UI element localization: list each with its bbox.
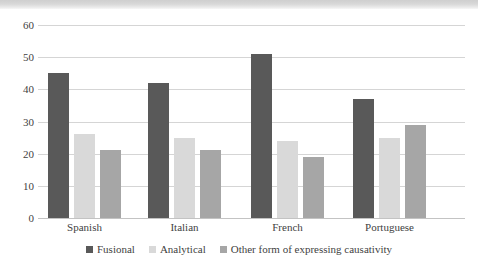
y-axis-tick-labels: 60 50 40 30 20 10 0: [0, 25, 34, 218]
legend-item-analytical[interactable]: Analytical: [149, 243, 206, 256]
bar-french-analytical: [277, 141, 298, 218]
y-tick-10: 10: [4, 181, 34, 192]
bar-spanish-analytical: [74, 134, 95, 218]
legend-swatch-icon: [220, 246, 227, 253]
y-tick-30: 30: [4, 117, 34, 128]
legend-item-other-form-of-expressing-causativity[interactable]: Other form of expressing causativity: [220, 243, 392, 256]
x-axis-category-labels: SpanishItalianFrenchPortuguese: [38, 221, 465, 237]
bar-portuguese-fusional: [353, 99, 374, 218]
legend-label: Fusional: [97, 243, 135, 256]
bar-french-fusional: [251, 54, 272, 218]
chart-legend: FusionalAnalyticalOther form of expressi…: [0, 243, 478, 256]
bar-portuguese-analytical: [379, 138, 400, 218]
scan-edge-band: [0, 0, 478, 9]
legend-swatch-icon: [149, 246, 156, 253]
y-tick-50: 50: [4, 52, 34, 63]
bar-italian-fusional: [148, 83, 169, 218]
y-tick-0: 0: [4, 213, 34, 224]
legend-label: Other form of expressing causativity: [231, 243, 392, 256]
bar-italian-other-form-of-expressing-causativity: [200, 150, 221, 218]
y-tick-40: 40: [4, 84, 34, 95]
bar-portuguese-other-form-of-expressing-causativity: [405, 125, 426, 218]
x-label-portuguese: Portuguese: [345, 221, 435, 234]
x-label-spanish: Spanish: [40, 221, 130, 234]
axis-baseline: [38, 218, 465, 219]
bar-series-layer: [38, 25, 465, 218]
bar-italian-analytical: [174, 138, 195, 218]
legend-item-fusional[interactable]: Fusional: [86, 243, 135, 256]
x-label-french: French: [243, 221, 333, 234]
chart-screenshot: 60 50 40 30 20 10 0 SpanishItalianFrench…: [0, 0, 478, 274]
legend-label: Analytical: [160, 243, 206, 256]
y-tick-60: 60: [4, 20, 34, 31]
bar-french-other-form-of-expressing-causativity: [303, 157, 324, 218]
bar-chart: 60 50 40 30 20 10 0 SpanishItalianFrench…: [0, 9, 478, 274]
bar-spanish-fusional: [48, 73, 69, 218]
legend-swatch-icon: [86, 246, 93, 253]
bar-spanish-other-form-of-expressing-causativity: [100, 150, 121, 218]
x-label-italian: Italian: [140, 221, 230, 234]
y-tick-20: 20: [4, 149, 34, 160]
